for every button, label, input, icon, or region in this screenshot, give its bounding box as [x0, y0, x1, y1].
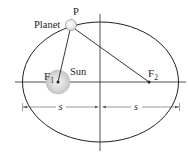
arrow-left-start	[23, 106, 27, 108]
planet	[66, 20, 77, 31]
point-p-label: P	[73, 6, 79, 17]
arrow-right-end	[175, 106, 179, 108]
focus-1-sub: 1	[50, 76, 54, 85]
planet-label: Planet	[34, 19, 60, 30]
dim-right-label: s	[134, 101, 138, 112]
arrow-right-start	[102, 106, 106, 108]
focus-2-sub: 2	[154, 73, 158, 82]
focus-1-point	[57, 81, 60, 84]
orbit-diagram: Planet P Sun F1 F2 s s	[0, 0, 189, 160]
dimension-s-right	[103, 103, 180, 111]
arrow-left-end	[95, 106, 99, 108]
focus-2-label: F2	[148, 67, 158, 82]
focus-2-point	[148, 81, 151, 84]
sun-label: Sun	[70, 66, 87, 77]
dim-left-label: s	[59, 101, 63, 112]
